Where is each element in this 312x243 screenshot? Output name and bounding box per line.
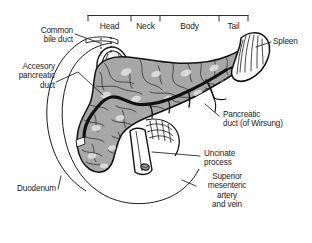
pancreas-anatomy-figure: Head Neck Body Tail Common bile duct Acc… (0, 0, 312, 243)
superior-mesenteric-vessels (130, 119, 179, 174)
label-pancreatic-duct: Pancreatic duct (of Wirsung) (223, 110, 311, 129)
label-common-bile-duct: Common bile duct (2, 26, 73, 45)
segment-label-head: Head (88, 22, 131, 31)
spleen-organ (232, 33, 270, 81)
segment-label-tail: Tail (219, 22, 248, 31)
segment-label-body: Body (160, 22, 219, 31)
label-duodenum: Duodenum (17, 184, 77, 193)
label-spleen: Spleen (273, 37, 311, 46)
segment-label-neck: Neck (131, 22, 160, 31)
label-accessory-pancreatic-duct: Accesory pancreatic duct (2, 62, 55, 90)
label-superior-mesenteric: Superior mesenteric artery and vein (196, 172, 258, 210)
label-uncinate-process: Uncinate process (204, 149, 258, 168)
